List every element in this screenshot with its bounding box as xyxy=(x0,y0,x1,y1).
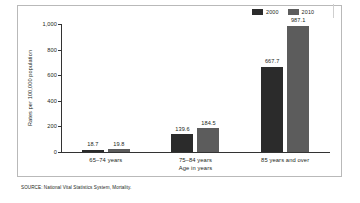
bar-2010-2[interactable] xyxy=(197,128,219,152)
bar-2010-3[interactable] xyxy=(287,26,309,152)
y-axis-tick xyxy=(58,152,62,153)
x-axis-category-label: 85 years and over xyxy=(240,157,330,164)
y-axis-tick-label: 400 xyxy=(47,98,57,104)
x-axis-title: Age in years xyxy=(61,165,330,172)
bar-2000-1[interactable] xyxy=(82,150,104,152)
bar-group: 667.7987.185 years and over xyxy=(240,24,330,152)
x-axis-line xyxy=(61,152,330,153)
y-axis-tick-label: 200 xyxy=(47,123,57,129)
source-note: SOURCE: National Vital Statistics System… xyxy=(21,185,131,191)
bar-2010-1[interactable] xyxy=(108,149,130,152)
legend-swatch-2010 xyxy=(288,9,299,15)
x-axis-category-label: 75–84 years xyxy=(151,157,241,164)
bar-2000-3[interactable] xyxy=(261,67,283,152)
legend-item-2010[interactable]: 2010 xyxy=(288,9,315,15)
legend-label-2000: 2000 xyxy=(266,9,279,15)
chart-legend: 2000 2010 xyxy=(252,6,314,17)
y-axis-tick-label: 600 xyxy=(47,72,57,78)
x-axis-category-label: 65–74 years xyxy=(61,157,151,164)
bar-value-label: 184.5 xyxy=(191,120,225,127)
bar-value-label: 19.8 xyxy=(102,141,136,148)
bar-2000-2[interactable] xyxy=(171,134,193,152)
bar-group: 139.6184.575–84 years xyxy=(151,24,241,152)
y-axis-tick-label: 1,000 xyxy=(43,21,58,27)
legend-label-2010: 2010 xyxy=(302,9,315,15)
legend-item-2000[interactable]: 2000 xyxy=(252,9,279,15)
y-axis-tick-labels: 02004006008001,000 xyxy=(35,24,57,152)
plot-area: 02004006008001,000 18.719.865–74 years13… xyxy=(61,24,330,152)
y-axis-tick-label: 800 xyxy=(47,47,57,53)
y-axis-title: Rates per 100,000 population xyxy=(26,24,34,152)
y-axis-tick-label: 0 xyxy=(54,149,57,155)
bar-value-label: 987.1 xyxy=(281,17,315,24)
figure: 2000 2010 Rates per 100,000 population 0… xyxy=(0,0,360,203)
bar-value-label: 667.7 xyxy=(255,58,289,65)
legend-divider xyxy=(333,4,334,18)
legend-swatch-2000 xyxy=(252,9,263,15)
bar-group: 18.719.865–74 years xyxy=(61,24,151,152)
